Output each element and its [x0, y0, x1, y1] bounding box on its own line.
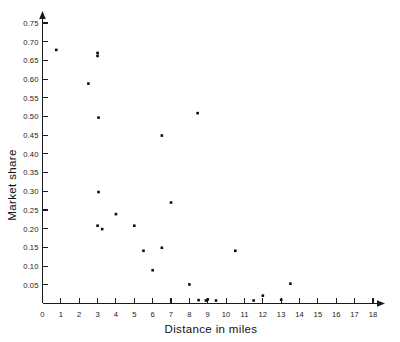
data-points-layer	[55, 49, 292, 302]
data-point	[101, 228, 104, 231]
data-point	[87, 82, 90, 85]
x-tick-label: 7	[169, 310, 173, 319]
y-tick-label: 0.60	[23, 75, 38, 84]
y-tick-label: 0.05	[23, 281, 38, 290]
x-tick-label: 9	[206, 310, 210, 319]
x-tick-label: 5	[132, 310, 136, 319]
data-point	[142, 249, 145, 252]
y-tick-label: 0.15	[23, 243, 38, 252]
y-tick-label: 0.70	[23, 38, 38, 47]
data-point	[161, 246, 164, 249]
y-axis-title: Market share	[6, 149, 18, 220]
y-tick-label: 0.35	[23, 168, 38, 177]
y-tick-label: 0.55	[23, 94, 38, 103]
data-point	[96, 52, 99, 55]
x-axis-tick-labels: 0123456789101112131415161718	[40, 310, 377, 319]
x-tick-label: 18	[369, 310, 378, 319]
x-tick-label: 3	[95, 310, 99, 319]
y-tick-label: 0.10	[23, 262, 38, 271]
data-point	[206, 298, 209, 301]
y-tick-label: 0.50	[23, 112, 38, 121]
x-tick-label: 15	[314, 310, 323, 319]
data-point	[96, 55, 99, 58]
x-tick-label: 8	[187, 310, 191, 319]
y-tick-label: 0.25	[23, 206, 38, 215]
y-tick-label: 0.75	[23, 19, 38, 28]
y-axis-arrowhead	[39, 11, 46, 19]
x-tick-label: 11	[240, 310, 248, 319]
x-tick-label: 14	[295, 310, 304, 319]
y-tick-label: 0.65	[23, 56, 38, 65]
x-axis-arrowhead	[377, 300, 385, 306]
data-point	[115, 213, 118, 216]
x-tick-label: 12	[259, 310, 268, 319]
y-axis-tick-labels: 0.050.100.150.200.250.300.350.400.450.50…	[23, 19, 38, 290]
data-point	[96, 224, 99, 227]
data-point	[97, 191, 100, 194]
x-tick-label: 2	[77, 310, 81, 319]
plot-canvas: 0.050.100.150.200.250.300.350.400.450.50…	[0, 0, 400, 342]
x-tick-label: 4	[114, 310, 118, 319]
data-point	[161, 134, 164, 137]
data-point	[151, 269, 154, 272]
data-point	[188, 283, 191, 286]
data-point	[196, 112, 199, 115]
data-point	[215, 299, 218, 302]
data-point	[262, 294, 265, 297]
data-point	[55, 49, 58, 52]
y-tick-label: 0.30	[23, 187, 38, 196]
data-point	[234, 249, 237, 252]
x-tick-label: 17	[350, 310, 359, 319]
x-tick-label: 13	[277, 310, 286, 319]
data-point	[289, 282, 292, 285]
x-tick-label: 1	[59, 310, 63, 319]
data-point	[280, 298, 283, 301]
y-tick-label: 0.45	[23, 131, 38, 140]
x-axis: 0123456789101112131415161718	[40, 298, 385, 319]
data-point	[133, 224, 136, 227]
x-tick-label: 6	[151, 310, 155, 319]
data-point	[97, 116, 100, 119]
x-tick-label: 10	[222, 310, 231, 319]
y-tick-label: 0.40	[23, 150, 38, 159]
x-axis-title: Distance in miles	[165, 323, 258, 335]
y-axis-ticks	[43, 23, 49, 285]
data-point	[197, 299, 200, 302]
scatter-plot-figure: 0.050.100.150.200.250.300.350.400.450.50…	[0, 0, 400, 342]
data-point	[170, 201, 173, 204]
data-point	[252, 299, 255, 302]
x-tick-label: 0	[40, 310, 44, 319]
x-tick-label: 16	[332, 310, 341, 319]
y-axis: 0.050.100.150.200.250.300.350.400.450.50…	[23, 11, 48, 303]
y-tick-label: 0.20	[23, 225, 38, 234]
